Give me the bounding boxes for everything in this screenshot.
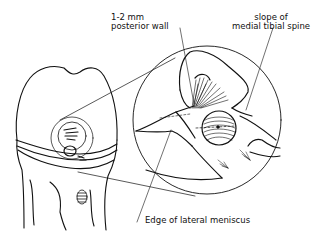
leader-posterior-wall — [180, 28, 194, 104]
projection-line-bottom — [78, 172, 195, 196]
label-posterior-wall-line2: posterior wall — [111, 22, 169, 31]
inset-anatomy — [136, 51, 280, 180]
label-lateral-meniscus: Edge of lateral meniscus — [145, 216, 250, 225]
knee-diagram — [0, 0, 332, 237]
leader-tibial-spine — [246, 28, 273, 110]
tibia-lesion — [77, 190, 87, 204]
projection-line-top — [60, 58, 175, 120]
acl-fibers — [192, 78, 228, 108]
magnified-inset-circle — [133, 46, 281, 194]
small-graft — [64, 128, 86, 160]
knee-outline — [16, 66, 117, 230]
small-inset-circle — [51, 117, 93, 159]
label-tibial-spine-line2: medial tibial spine — [232, 22, 310, 31]
label-posterior-wall: 1-2 mm posterior wall — [111, 13, 169, 31]
label-tibial-spine: slope of medial tibial spine — [232, 13, 310, 31]
